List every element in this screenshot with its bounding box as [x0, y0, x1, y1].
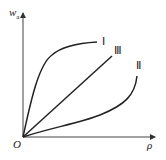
x-axis-label: ρ	[147, 140, 152, 151]
chart-canvas	[0, 0, 166, 160]
y-axis-label-sub: a	[16, 13, 19, 21]
curve-label-I: Ⅰ	[102, 36, 105, 47]
curve-label-II: Ⅱ	[136, 60, 141, 71]
y-axis-label: wa	[9, 7, 19, 21]
curve-label-III: Ⅲ	[114, 45, 122, 56]
curve-I	[23, 42, 97, 137]
origin-label: O	[13, 139, 21, 150]
